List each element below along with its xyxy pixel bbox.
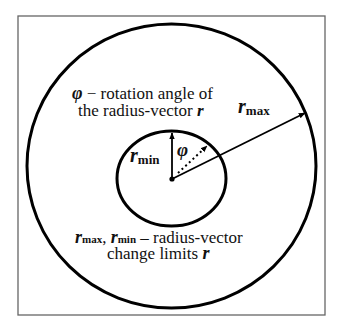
limits-description-line2: change limits r: [107, 243, 210, 263]
phi-description-line2: the radius-vector r: [78, 101, 204, 120]
phi-angle-label: φ: [177, 139, 188, 160]
phi-description-line1: φ − rotation angle of: [72, 83, 213, 103]
concentric-circles-diagram: φ − rotation angle of the radius-vector …: [0, 0, 342, 333]
center-point: [169, 176, 174, 181]
